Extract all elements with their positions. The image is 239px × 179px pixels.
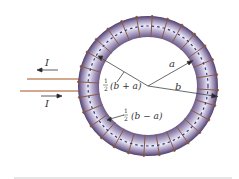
svg-text:2: 2: [104, 85, 108, 92]
radius-a-label: a: [169, 58, 175, 69]
current-label-bottom: I: [44, 98, 50, 109]
current-label-top: I: [44, 57, 50, 68]
lead-wires: [20, 79, 86, 91]
svg-text:1: 1: [124, 107, 128, 114]
radius-b-label: b: [175, 81, 181, 92]
toroid-diagram: I I a b 1 2 (b + a) 1 2 (b − a): [0, 0, 239, 179]
svg-text:2: 2: [124, 115, 128, 122]
svg-text:1: 1: [104, 77, 108, 84]
half-width-label: 1 2 (b − a): [123, 107, 163, 122]
svg-text:(b − a): (b − a): [131, 111, 163, 121]
current-arrows: [37, 68, 62, 98]
svg-text:(b + a): (b + a): [110, 81, 142, 91]
